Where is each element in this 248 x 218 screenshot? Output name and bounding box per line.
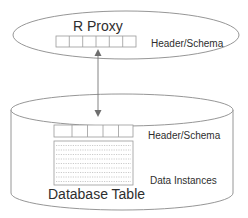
proxy-ellipse [13,11,239,59]
proxy-header-row [56,36,136,47]
database-data-box [54,141,133,185]
proxy-database-diagram: R Proxy Header/Schema Header/Schema Data… [0,0,248,218]
database-header-label: Header/Schema [148,130,221,141]
data-instances-frame [54,141,133,185]
cylinder-top [11,94,233,126]
proxy-ellipse-shape [13,11,239,59]
data-instances-label: Data Instances [150,175,217,186]
proxy-title: R Proxy [73,18,123,34]
database-header-row [54,125,133,137]
database-table-title: Database Table [48,186,145,202]
database-header-frame [54,125,133,137]
proxy-header-label: Header/Schema [151,38,224,49]
